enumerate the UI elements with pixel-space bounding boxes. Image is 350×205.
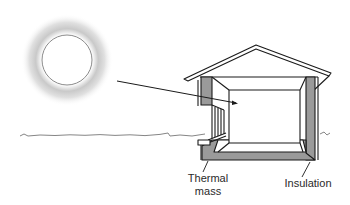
window xyxy=(208,105,226,143)
insulation-label: Insulation xyxy=(276,177,340,190)
insulation-pointer xyxy=(302,162,310,177)
thermal-mass-pointer xyxy=(203,161,208,172)
thermal-mass-label: Thermal mass xyxy=(186,172,230,198)
house-cross-section xyxy=(184,45,331,160)
passive-solar-diagram xyxy=(0,0,350,205)
thermal-mass-label-line2: mass xyxy=(186,185,230,198)
sunlight-arrow xyxy=(117,81,238,105)
thermal-mass-label-line1: Thermal xyxy=(186,172,230,185)
sun-icon xyxy=(21,14,113,106)
